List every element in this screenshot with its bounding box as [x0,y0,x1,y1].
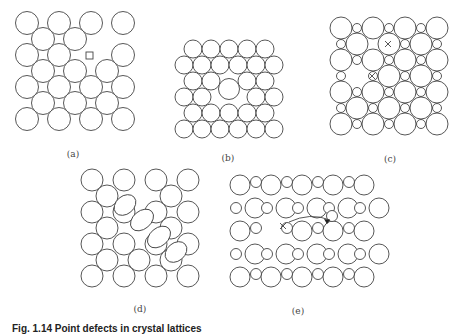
panel-label-c: (c) [384,154,396,164]
small-ion [353,56,362,65]
small-ion [401,40,410,49]
small-ion [353,88,362,97]
large-ion [362,49,384,71]
small-ion [417,24,426,33]
atom [229,120,247,138]
large-atom [261,267,281,287]
small-ion [385,88,394,97]
large-ion [362,81,384,103]
large-atom [323,267,343,287]
atom [160,185,182,207]
large-ion [362,17,384,39]
atom [247,56,265,74]
small-atom [293,249,304,260]
vacancy-square-icon [86,52,93,59]
large-atom [230,267,250,287]
large-ion [426,49,448,71]
atom [220,40,238,58]
atom [256,40,274,58]
small-ion [385,120,394,129]
small-atom [231,249,242,260]
large-ion [394,81,416,103]
atom [175,56,193,74]
large-ion [426,81,448,103]
small-atom [231,203,242,214]
small-ion [417,56,426,65]
small-ion [369,104,378,113]
atom [184,72,202,90]
atom [229,56,247,74]
small-atom [251,223,262,234]
panel-label-d: (d) [134,304,147,314]
small-atom [355,249,366,260]
atom [184,40,202,58]
panel-label-e: (e) [292,306,304,316]
small-atom [282,269,293,280]
small-ion [353,24,362,33]
large-ion [410,33,432,55]
small-ion [337,72,346,81]
small-atom [262,203,273,214]
large-atom [292,267,312,287]
atom [247,88,265,106]
large-ion [410,65,432,87]
large-atom [64,60,87,83]
large-atom [354,267,374,287]
large-ion [426,113,448,135]
large-atom [261,175,281,195]
small-atom [344,177,355,188]
atom [220,104,238,122]
small-atom [313,223,324,234]
small-ion [385,56,394,65]
large-ion [378,33,400,55]
atom [184,104,202,122]
large-atom [112,12,135,35]
small-ion [353,120,362,129]
atom [193,56,211,74]
atom [175,120,193,138]
panel-c-ionic-vacancy [330,17,448,135]
large-atom [64,28,87,51]
small-atom [251,177,262,188]
small-ion [417,88,426,97]
small-ion [369,72,378,81]
small-ion [337,104,346,113]
large-ion [330,81,352,103]
atom [96,217,118,239]
small-atom [344,269,355,280]
panel-d-distortion [81,169,199,287]
atom [128,249,150,271]
atom [177,201,199,223]
large-ion [346,97,368,119]
large-ion [394,17,416,39]
large-ion [346,33,368,55]
panel-label-a: (a) [67,149,79,159]
small-atom [282,223,293,234]
large-atom [323,221,343,241]
panel-label-b: (b) [222,153,235,163]
small-ion [433,104,442,113]
atom [177,169,199,191]
atom [96,249,118,271]
atom [265,56,283,74]
atom [202,104,220,122]
large-atom [96,60,119,83]
large-ion [426,17,448,39]
migration-arrow [289,216,330,222]
small-ion [433,72,442,81]
small-ion [433,40,442,49]
panel-a-vacancy [16,12,135,131]
large-atom [96,92,119,115]
small-ion [385,24,394,33]
large-ion [378,65,400,87]
large-ion [330,17,352,39]
small-ion [337,40,346,49]
atom [211,120,229,138]
small-ion [417,120,426,129]
large-atom [230,221,250,241]
large-atom [32,92,55,115]
large-atom [323,175,343,195]
large-atom [354,175,374,195]
small-atom [344,223,355,234]
